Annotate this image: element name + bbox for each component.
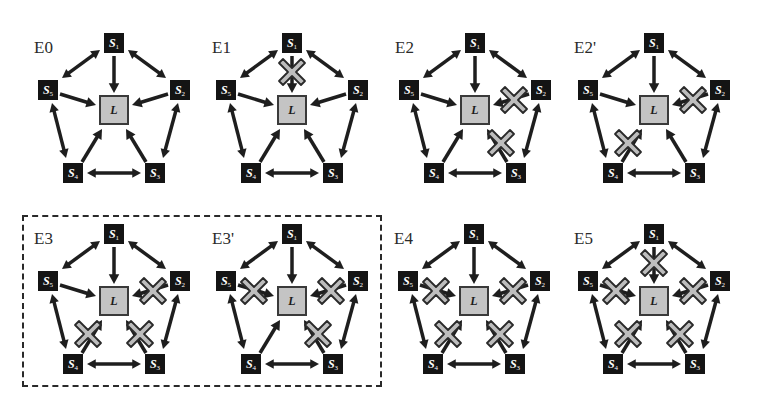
node-index: 4 [436, 173, 440, 181]
peer-link-arrow [607, 245, 635, 266]
node-s5: S5 [216, 271, 236, 291]
node-index: 3 [697, 364, 701, 372]
leader-link-arrow-s5-l [421, 94, 450, 103]
leader-node: L [277, 286, 307, 316]
peer-link-arrow [526, 109, 538, 152]
peer-link-arrow [493, 245, 521, 266]
arrowhead-icon [265, 168, 274, 178]
node-s3: S3 [506, 163, 526, 183]
arrowhead-icon [287, 83, 298, 93]
arrowhead-icon [493, 168, 502, 178]
node-s2: S2 [710, 271, 730, 291]
peer-link-arrow [414, 109, 425, 152]
node-index: 5 [50, 281, 54, 289]
arrowhead-icon [446, 97, 457, 107]
arrowhead-icon [85, 97, 96, 107]
node-index: 3 [697, 173, 701, 181]
node-letter: S [649, 36, 656, 50]
peer-link-arrow [343, 300, 355, 343]
leader-link-arrow-s4-l [443, 135, 459, 162]
leader-link-arrow-s5-l [238, 94, 267, 103]
leader-link-arrow-s4-l [82, 135, 98, 162]
node-index: 5 [410, 281, 414, 289]
node-index: 5 [228, 281, 232, 289]
node-s5: S5 [216, 80, 236, 100]
node-letter: S [287, 227, 294, 241]
node-index: 3 [157, 173, 161, 181]
node-letter: S [43, 83, 50, 97]
arrowhead-icon [599, 148, 608, 158]
arrowhead-icon [50, 103, 59, 113]
node-index: 4 [75, 364, 79, 372]
arrowhead-icon [87, 168, 96, 178]
node-s1: S1 [465, 33, 485, 53]
peer-link-arrow [593, 300, 604, 343]
arrowhead-icon [109, 83, 120, 93]
scenario-panel-e0: E0S1S2S3S4S5L [0, 0, 200, 200]
arrowhead-icon [265, 359, 274, 369]
node-index: 4 [253, 173, 257, 181]
node-letter: S [287, 36, 294, 50]
arrowhead-icon [470, 83, 481, 93]
node-index: 1 [656, 234, 660, 242]
node-s3: S3 [145, 163, 165, 183]
leader-link-arrow-s5-l [60, 94, 89, 103]
arrowhead-icon [310, 288, 321, 298]
node-s1: S1 [282, 33, 302, 53]
arrowhead-icon [237, 148, 246, 158]
scenario-diagram: E0S1S2S3S4S5LE1S1S2S3S4S5LE2S1S2S3S4S5LE… [0, 0, 758, 406]
node-letter: S [690, 357, 697, 371]
node-letter: S [353, 83, 360, 97]
node-s4: S4 [63, 163, 83, 183]
arrowhead-icon [419, 339, 428, 349]
node-s3: S3 [323, 163, 343, 183]
node-letter: S [608, 357, 615, 371]
node-s5: S5 [578, 80, 598, 100]
node-s5: S5 [399, 80, 419, 100]
arrowhead-icon [310, 359, 319, 369]
scenario-panel-e3p: E3'S1S2S3S4S5L [178, 191, 378, 391]
node-letter: S [404, 83, 411, 97]
leader-link-arrow-s5-l [600, 94, 629, 103]
node-letter: S [428, 357, 435, 371]
node-index: 1 [116, 234, 120, 242]
node-index: 1 [294, 234, 298, 242]
node-index: 3 [517, 364, 521, 372]
arrowhead-icon [627, 168, 636, 178]
arrowhead-icon [522, 148, 531, 158]
node-index: 4 [253, 364, 257, 372]
node-letter: S [608, 166, 615, 180]
node-letter: S [246, 166, 253, 180]
arrowhead-icon [132, 288, 143, 298]
node-letter: S [470, 36, 477, 50]
node-letter: S [583, 83, 590, 97]
arrowhead-icon [447, 359, 456, 369]
node-index: 1 [294, 43, 298, 51]
panel-label: E2' [574, 38, 596, 58]
scenario-panel-e1: E1S1S2S3S4S5L [178, 0, 378, 200]
arrowhead-icon [493, 97, 504, 107]
node-index: 1 [477, 43, 481, 51]
node-s5: S5 [578, 271, 598, 291]
peer-link-arrow [673, 54, 701, 75]
arrowhead-icon [50, 294, 59, 304]
node-letter: S [429, 166, 436, 180]
node-index: 3 [335, 364, 339, 372]
peer-link-arrow [133, 54, 161, 75]
arrowhead-icon [521, 339, 530, 349]
arrowhead-icon [287, 274, 298, 284]
arrowhead-icon [161, 148, 170, 158]
node-letter: S [221, 274, 228, 288]
scenario-panel-e3: E3S1S2S3S4S5L [0, 191, 200, 391]
leader-link-arrow-s4-l [260, 326, 276, 353]
arrowhead-icon [132, 168, 141, 178]
arrowhead-icon [349, 294, 358, 304]
node-s4: S4 [241, 163, 261, 183]
peer-link-arrow [67, 54, 95, 75]
peer-link-arrow [593, 109, 604, 152]
arrowhead-icon [625, 97, 636, 107]
node-index: 4 [615, 173, 619, 181]
arrowhead-icon [349, 103, 358, 113]
node-letter: S [715, 83, 722, 97]
node-index: 4 [615, 364, 619, 372]
